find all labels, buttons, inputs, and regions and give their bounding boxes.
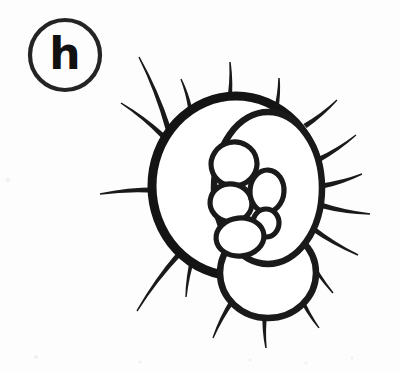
scan-speck-1 xyxy=(34,355,38,359)
panel-label-text: h xyxy=(49,28,80,79)
scan-speck-4 xyxy=(304,361,307,364)
inner-cell-5 xyxy=(214,216,266,259)
scan-speck-5 xyxy=(351,357,354,360)
microfossil-line-drawing: h xyxy=(0,0,400,372)
scan-speck-2 xyxy=(138,360,141,363)
scan-speck-3 xyxy=(249,359,252,362)
figure-panel: h xyxy=(0,0,400,372)
scan-speck-6 xyxy=(6,178,10,182)
